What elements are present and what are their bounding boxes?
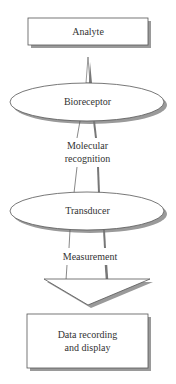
arrow-head-triangle — [44, 279, 153, 308]
transducer-label: Transducer — [10, 205, 165, 217]
bioreceptor-label: Bioreceptor — [10, 96, 165, 108]
output-label-line1: Data recording — [27, 329, 148, 341]
output-label-line2: and display — [27, 342, 148, 354]
analyte-label: Analyte — [28, 26, 148, 38]
molecular-label-line2: recognition — [30, 153, 145, 165]
molecular-label-line1: Molecular — [30, 140, 145, 152]
measurement-label: Measurement — [30, 251, 150, 263]
diagram-canvas — [0, 0, 176, 384]
arrow-analyte-bioreceptor — [86, 57, 92, 83]
